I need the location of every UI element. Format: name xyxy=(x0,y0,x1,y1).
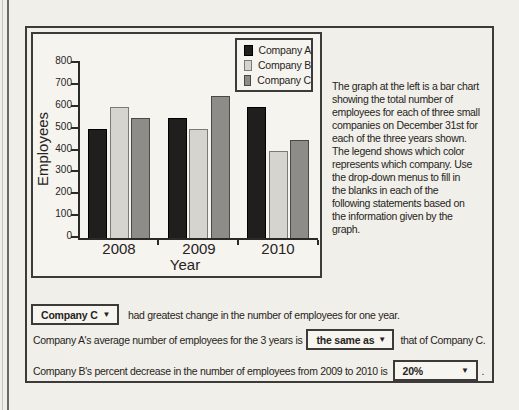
legend-item-company-a: Company A xyxy=(244,44,311,56)
instructions-line: the drop-down menus to fill in xyxy=(332,171,480,184)
page-edge-line-inner xyxy=(7,0,9,410)
bar-company-b-2008 xyxy=(110,107,129,238)
y-tick-label: 600 xyxy=(42,99,72,110)
statement-3-text-before: Company B's percent decrease in the numb… xyxy=(33,365,388,377)
y-tick-label: 500 xyxy=(42,121,72,132)
legend-label-company-a: Company A xyxy=(259,44,311,56)
dropdown-average-comparison-value: the same as xyxy=(316,334,374,346)
instructions-line: The legend shows which color xyxy=(332,145,480,158)
instructions-line: companies on December 31st for xyxy=(332,119,480,132)
statement-2-text-before: Company A's average number of employees … xyxy=(33,334,302,346)
y-tick xyxy=(71,170,78,172)
statement-row-3: Company B's percent decrease in the numb… xyxy=(33,360,484,381)
chart-legend: Company A Company B Company C xyxy=(235,38,313,92)
statement-2-text-after: that of Company C. xyxy=(400,334,485,346)
y-tick-label: 800 xyxy=(42,55,72,66)
y-tick xyxy=(71,236,78,238)
bar-company-c-2010 xyxy=(290,140,309,238)
legend-item-company-b: Company B xyxy=(244,59,311,71)
bar-company-a-2008 xyxy=(88,129,107,238)
bar-company-a-2009 xyxy=(168,118,187,238)
dropdown-average-comparison[interactable]: the same as ▼ xyxy=(306,329,394,350)
instructions-paragraph: The graph at the left is a bar chartshow… xyxy=(332,80,480,236)
legend-swatch-company-c xyxy=(244,75,251,86)
bar-chart-panel: Employees 0100200300400500600700800 2008… xyxy=(31,32,322,278)
instructions-line: represents which company. Use xyxy=(332,158,480,171)
instructions-line: following statements based on xyxy=(332,197,480,210)
y-tick xyxy=(71,214,78,216)
page-edge-line-outer xyxy=(2,0,3,410)
instructions-line: the information given by the xyxy=(332,210,480,223)
instructions-line: employees for each of three small xyxy=(332,106,480,119)
dropdown-arrow-icon: ▼ xyxy=(102,310,110,319)
dropdown-percent-decrease-value: 20% xyxy=(403,365,423,377)
x-axis-title: Year xyxy=(155,256,215,273)
dropdown-arrow-icon: ▼ xyxy=(461,366,469,375)
y-tick-label: 400 xyxy=(42,143,72,154)
worksheet-frame: Employees 0100200300400500600700800 2008… xyxy=(25,26,494,383)
statement-row-1: Company C ▼ had greatest change in the n… xyxy=(31,304,400,325)
x-tick-label-2010: 2010 xyxy=(248,240,308,257)
instructions-line: each of the three years shown. xyxy=(332,132,480,145)
legend-swatch-company-a xyxy=(244,45,253,56)
y-tick-label: 700 xyxy=(42,77,72,88)
y-tick xyxy=(71,127,78,129)
statement-3-period: . xyxy=(482,365,485,377)
bar-company-b-2010 xyxy=(269,151,288,239)
y-tick xyxy=(71,61,78,63)
x-tick xyxy=(317,240,319,245)
x-tick xyxy=(157,240,159,245)
instructions-line: showing the total number of xyxy=(332,93,480,106)
y-tick-label: 300 xyxy=(42,164,72,175)
instructions-line: graph. xyxy=(332,223,480,236)
dropdown-greatest-change[interactable]: Company C ▼ xyxy=(31,304,119,325)
x-tick-label-2009: 2009 xyxy=(169,240,229,257)
dropdown-greatest-change-value: Company C xyxy=(41,309,98,321)
x-tick-label-2008: 2008 xyxy=(89,240,149,257)
bar-company-b-2009 xyxy=(189,129,208,238)
y-tick xyxy=(71,149,78,151)
y-tick xyxy=(71,83,78,85)
dropdown-percent-decrease[interactable]: 20% ▼ xyxy=(393,360,478,381)
bar-company-c-2008 xyxy=(131,118,150,238)
x-tick xyxy=(237,240,239,245)
legend-label-company-c: Company C xyxy=(257,74,311,86)
y-tick-label: 0 xyxy=(42,230,72,241)
y-tick xyxy=(71,105,78,107)
bar-company-c-2009 xyxy=(211,96,230,238)
instructions-line: The graph at the left is a bar chart xyxy=(332,80,480,93)
y-tick xyxy=(71,192,78,194)
instructions-line: the blanks in each of the xyxy=(332,184,480,197)
statement-1-text: had greatest change in the number of emp… xyxy=(128,309,400,321)
legend-item-company-c: Company C xyxy=(244,74,311,86)
legend-swatch-company-b xyxy=(244,60,252,71)
statement-row-2: Company A's average number of employees … xyxy=(33,329,485,350)
legend-label-company-b: Company B xyxy=(258,59,311,71)
y-tick-label: 200 xyxy=(42,186,72,197)
dropdown-arrow-icon: ▼ xyxy=(378,335,386,344)
bar-company-a-2010 xyxy=(247,107,266,238)
y-tick-label: 100 xyxy=(42,208,72,219)
